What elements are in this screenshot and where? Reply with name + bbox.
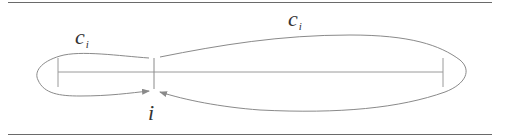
loop-diagram: ci ci i <box>0 0 507 136</box>
right-loop-label-base: c <box>288 6 298 31</box>
left-loop-label: ci <box>75 24 89 50</box>
right-loop-label: ci <box>288 6 302 32</box>
diagram-canvas <box>0 0 507 136</box>
left-loop-label-subscript: i <box>86 38 89 50</box>
left-loop-arrow <box>37 53 149 96</box>
vertex-label: i <box>148 100 154 126</box>
right-loop-label-subscript: i <box>299 20 302 32</box>
left-loop-label-base: c <box>75 24 85 49</box>
right-loop-arrow <box>160 35 466 111</box>
